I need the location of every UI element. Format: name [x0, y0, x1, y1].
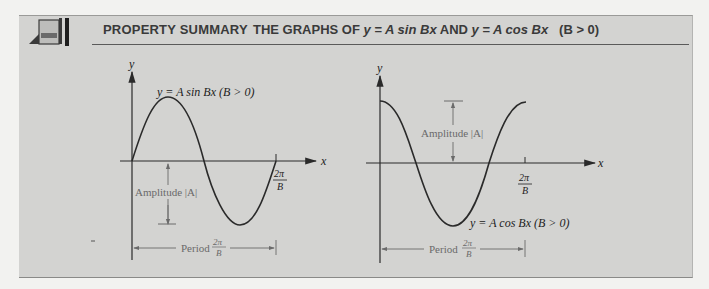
- cos-tick-num: 2π: [519, 172, 530, 183]
- cos-amplitude-label: Amplitude |A|: [421, 127, 483, 139]
- cos-x-label: x: [597, 156, 604, 170]
- sine-tick-num: 2π: [274, 168, 285, 179]
- cos-period-den: B: [466, 249, 472, 259]
- sine-period-label: Period: [181, 242, 210, 254]
- cos-y-label: y: [376, 61, 383, 75]
- sine-y-label: y: [128, 57, 135, 71]
- graphs-figure: y x y = A sin Bx (B > 0) 2π B Amplitude …: [0, 0, 709, 289]
- cosine-graph: y x 2π B y = A cos Bx (B > 0) Amplitude …: [366, 61, 604, 263]
- cos-curve-label: y = A cos Bx (B > 0): [469, 216, 569, 230]
- cos-period-label: Period: [429, 243, 458, 255]
- cos-period-num: 2π: [463, 238, 473, 248]
- sine-graph: y x y = A sin Bx (B > 0) 2π B Amplitude …: [91, 57, 327, 260]
- sine-curve-label: y = A sin Bx (B > 0): [156, 85, 254, 99]
- sine-amplitude-label: Amplitude |A|: [135, 186, 197, 198]
- sine-x-label: x: [320, 154, 327, 168]
- cos-tick-den: B: [522, 185, 528, 196]
- sine-tick-den: B: [277, 181, 283, 192]
- sine-period-num: 2π: [213, 237, 223, 247]
- sine-period-den: B: [216, 248, 222, 258]
